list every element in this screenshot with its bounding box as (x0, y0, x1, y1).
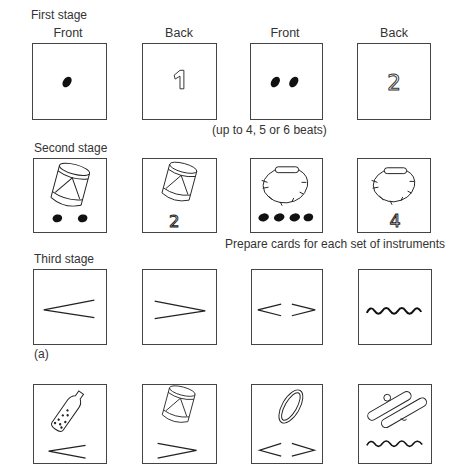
second-stage-note: Prepare cards for each set of instrument… (225, 237, 445, 251)
beat-dots-icon (251, 44, 322, 119)
svg-text:2: 2 (387, 70, 401, 95)
card-decrescendo (142, 269, 217, 345)
card-crescendo-decrescendo (251, 269, 323, 345)
number-two-outline-icon: 2 (358, 44, 430, 119)
beat-dot-icon (33, 44, 106, 119)
card-wavy-line (358, 269, 432, 345)
drum-icon (34, 159, 106, 232)
crescendo-decrescendo-symbol-icon (252, 270, 322, 344)
crescendo-symbol-icon (34, 270, 106, 344)
drum-icon: 2 (143, 159, 216, 232)
card-back-number-2: 2 (357, 43, 431, 120)
second-stage-title: Second stage (34, 141, 107, 155)
card-claves-wavy-line (358, 384, 432, 464)
tambourine-ring-icon (252, 385, 322, 463)
card-tambourine-crescendo-decrescendo (251, 384, 323, 464)
card-front-two-beats (250, 43, 323, 120)
drum-icon (143, 385, 216, 463)
first-stage-note: (up to 4, 5 or 6 beats) (212, 123, 327, 137)
claves-icon (359, 385, 431, 463)
jingle-ring-icon (251, 159, 322, 232)
card-shaker-crescendo (33, 384, 107, 464)
decrescendo-symbol-icon (143, 270, 216, 344)
card-front-one-beat (32, 43, 107, 120)
card-crescendo (33, 269, 107, 345)
card-jingle-ring-four-beats (250, 158, 323, 233)
card-drum-number-2: 2 (142, 158, 217, 233)
card-back-number-1 (142, 43, 217, 120)
card-drum-two-beats (33, 158, 107, 233)
wavy-line-symbol-icon (359, 270, 431, 344)
column-header-front-2: Front (245, 26, 325, 40)
number-one-outline-icon (143, 44, 216, 119)
card-drum-decrescendo (142, 384, 217, 464)
column-header-front-1: Front (28, 26, 108, 40)
column-header-back-1: Back (139, 26, 219, 40)
jingle-ring-icon: 4 (358, 159, 430, 232)
svg-text:4: 4 (389, 211, 400, 231)
label-a: (a) (34, 347, 49, 361)
column-header-back-2: Back (354, 26, 434, 40)
svg-text:2: 2 (169, 212, 180, 231)
first-stage-title: First stage (31, 8, 87, 22)
card-jingle-ring-number-4: 4 (357, 158, 431, 233)
third-stage-title: Third stage (34, 252, 94, 266)
shaker-bottle-icon (34, 385, 106, 463)
